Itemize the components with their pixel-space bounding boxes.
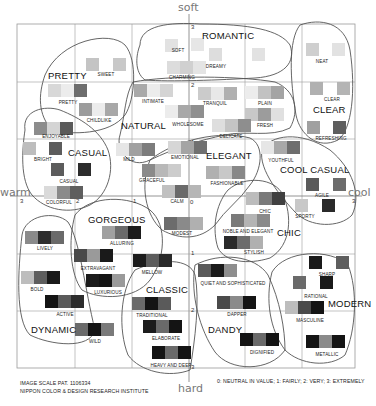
- swatch-group: [143, 320, 182, 333]
- swatch-group: [285, 301, 324, 314]
- swatch-group: [132, 297, 171, 310]
- color-swatch: [48, 84, 61, 97]
- footer-institute: NIPPON COLOR & DESIGN RESEARCH INSTITUTE: [20, 388, 149, 394]
- color-swatch: [224, 236, 237, 249]
- group-label: NATURAL: [121, 120, 166, 131]
- swatch-group: [162, 185, 201, 198]
- color-swatch: [101, 323, 114, 336]
- color-swatch: [113, 58, 126, 71]
- color-swatch: [160, 84, 173, 97]
- color-swatch: [147, 84, 160, 97]
- color-swatch: [193, 61, 206, 74]
- swatch-group: [164, 217, 203, 230]
- color-swatch: [217, 296, 230, 309]
- image-word: DIGNIFIED: [250, 350, 274, 355]
- color-swatch: [230, 296, 243, 309]
- color-swatch: [259, 192, 272, 205]
- image-word: FRESH: [257, 123, 273, 128]
- image-word: SHARP: [319, 272, 335, 277]
- swatch-group: [165, 105, 204, 118]
- color-swatch: [71, 295, 84, 308]
- color-swatch: [146, 254, 159, 267]
- swatch-group: [252, 48, 265, 61]
- color-swatch: [178, 105, 191, 118]
- swatch-group: [322, 199, 335, 212]
- swatch-group: [336, 256, 349, 269]
- color-swatch: [306, 43, 319, 56]
- image-word: REFRESHING: [315, 136, 346, 141]
- image-word: BOLD: [31, 287, 44, 292]
- swatch-group: [333, 178, 346, 191]
- image-word: CHIC: [259, 209, 271, 214]
- color-swatch: [165, 346, 178, 359]
- group-label: DANDY: [208, 324, 242, 335]
- tick-x: 0: [190, 199, 193, 205]
- image-word: LIVELY: [37, 246, 53, 251]
- color-swatch: [51, 231, 64, 244]
- color-swatch: [333, 121, 346, 134]
- image-word: CHILDLIKE: [87, 118, 112, 123]
- color-swatch: [61, 84, 74, 97]
- color-swatch: [320, 276, 333, 289]
- tick-y: 1: [191, 250, 194, 256]
- color-swatch: [336, 256, 349, 269]
- group-label: MODERN: [328, 298, 371, 309]
- color-swatch: [258, 108, 271, 121]
- color-swatch: [190, 217, 203, 230]
- image-word: ENJOYABLE: [42, 134, 70, 139]
- color-swatch: [142, 164, 155, 177]
- swatch-group: [246, 192, 285, 205]
- image-word: STYLISH: [244, 250, 264, 255]
- swatch-group: [240, 333, 279, 346]
- color-swatch: [232, 166, 245, 179]
- tick-y: 3: [191, 24, 194, 30]
- color-swatch: [155, 164, 168, 177]
- color-swatch: [116, 143, 129, 156]
- color-swatch: [156, 320, 169, 333]
- swatch-group: [86, 58, 126, 71]
- swatch-group: [49, 142, 62, 155]
- group-label: ELEGANT: [206, 150, 252, 161]
- color-swatch: [75, 323, 88, 336]
- swatch-group: [102, 226, 141, 239]
- color-swatch: [87, 249, 100, 262]
- swatch-group: [48, 84, 87, 97]
- swatch-group: [217, 296, 256, 309]
- color-swatch: [159, 254, 172, 267]
- swatch-group: [310, 82, 323, 95]
- color-swatch: [34, 271, 47, 284]
- color-swatch: [211, 264, 224, 277]
- swatch-group: [293, 276, 306, 289]
- color-swatch: [175, 185, 188, 198]
- swatch-group: [25, 231, 64, 244]
- image-word: SPORTY: [295, 214, 314, 219]
- footer-legend: 0: NEUTRAL IN VALUE; 1: FAIRLY; 2: VERY;…: [217, 378, 365, 384]
- swatch-group: [333, 121, 346, 134]
- swatch-group: [261, 141, 300, 154]
- swatch-group: [23, 142, 36, 155]
- image-word: BRIGHT: [34, 157, 52, 162]
- color-swatch: [252, 48, 265, 61]
- color-swatch: [112, 274, 125, 287]
- color-swatch: [295, 199, 308, 212]
- image-word: MILD: [123, 157, 134, 162]
- tick-x: 3: [352, 198, 355, 204]
- image-word: PRETTY: [59, 100, 78, 105]
- swatch-group: [337, 82, 350, 95]
- color-swatch: [134, 84, 147, 97]
- swatch-group: [307, 121, 320, 134]
- image-scale-diagram: soft hard warm cool 3 2 1 0 1 2 3 3 2 1 …: [0, 0, 376, 406]
- swatch-group: [134, 84, 173, 97]
- image-word: METALLIC: [316, 352, 339, 357]
- color-swatch: [23, 142, 36, 155]
- swatch-group: [209, 48, 222, 61]
- color-swatch: [168, 141, 181, 154]
- color-swatch: [257, 214, 270, 227]
- color-swatch: [45, 295, 58, 308]
- image-word: NOBLE AND ELEGANT: [223, 229, 274, 234]
- image-word: MODEST: [172, 231, 192, 236]
- color-swatch: [250, 236, 263, 249]
- color-swatch: [238, 119, 251, 132]
- image-word: TRANQUIL: [203, 101, 227, 106]
- image-word: CALM: [170, 199, 183, 204]
